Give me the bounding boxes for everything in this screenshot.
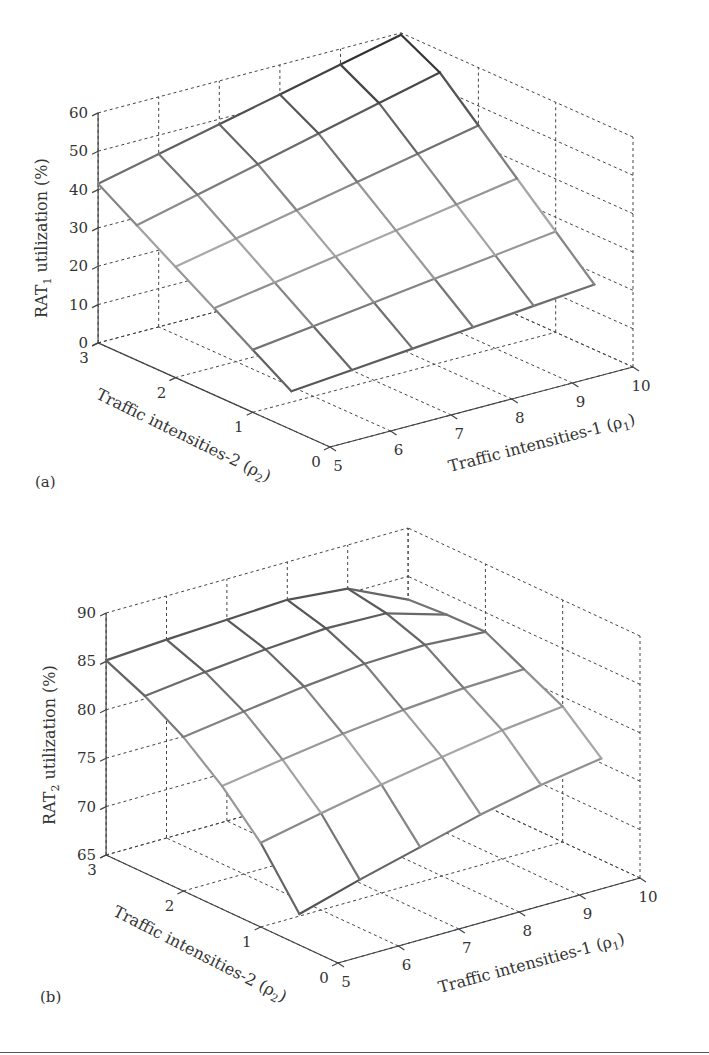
x-tick-label: 7 bbox=[462, 939, 472, 957]
z-tick-label: 70 bbox=[77, 798, 96, 816]
x-tick-label: 8 bbox=[515, 409, 525, 427]
x-tick-label: 6 bbox=[402, 956, 412, 974]
chart-b-rat2-utilization: 65707580859056789100123 RAT2 utilization… bbox=[40, 528, 658, 1008]
x-tick-label: 9 bbox=[583, 905, 593, 923]
chart-a-y-axis-label: Traffic intensities-2 (ρ2) bbox=[92, 385, 274, 489]
y-tick-label: 1 bbox=[242, 933, 252, 951]
page-bottom-rule bbox=[0, 1052, 709, 1053]
y-tick-label: 2 bbox=[157, 384, 167, 402]
z-tick-label: 90 bbox=[77, 604, 96, 622]
x-tick-label: 6 bbox=[394, 441, 404, 459]
z-tick-label: 10 bbox=[69, 296, 88, 314]
y-tick-label: 3 bbox=[79, 349, 89, 367]
y-tick-label: 0 bbox=[311, 453, 321, 471]
chart-b-y-axis-label: Traffic intensities-2 (ρ2) bbox=[109, 902, 290, 1009]
z-tick-label: 40 bbox=[69, 181, 88, 199]
y-tick-label: 0 bbox=[319, 969, 329, 987]
z-tick-label: 85 bbox=[77, 652, 96, 670]
y-tick-label: 2 bbox=[165, 897, 175, 915]
chart-a-surface-mesh bbox=[98, 35, 594, 392]
x-tick-label: 10 bbox=[638, 888, 657, 906]
z-tick-label: 60 bbox=[69, 104, 88, 122]
x-tick-label: 8 bbox=[522, 922, 532, 940]
y-tick-label: 1 bbox=[234, 418, 244, 436]
z-tick-label: 30 bbox=[69, 219, 88, 237]
z-tick-label: 75 bbox=[77, 749, 96, 767]
x-tick-label: 5 bbox=[333, 457, 343, 475]
z-tick-label: 80 bbox=[77, 701, 96, 719]
figure-canvas: 010203040506056789100123 RAT1 utilizatio… bbox=[0, 0, 709, 1055]
z-tick-label: 20 bbox=[69, 257, 88, 275]
x-tick-label: 5 bbox=[341, 973, 351, 991]
chart-a-x-axis-label: Traffic intensities-1 (ρ1) bbox=[446, 409, 638, 478]
chart-a-rat1-utilization: 010203040506056789100123 RAT1 utilizatio… bbox=[32, 33, 651, 491]
chart-b-surface-mesh bbox=[106, 589, 601, 914]
chart-b-panel-label: (b) bbox=[40, 988, 61, 1006]
y-tick-label: 3 bbox=[87, 861, 97, 879]
chart-b-z-axis-label: RAT2 utilization (%) bbox=[40, 665, 62, 825]
x-tick-label: 7 bbox=[454, 425, 464, 443]
chart-a-z-axis-label: RAT1 utilization (%) bbox=[32, 158, 54, 318]
z-tick-label: 50 bbox=[69, 142, 88, 160]
chart-a-panel-label: (a) bbox=[35, 473, 56, 491]
x-tick-label: 10 bbox=[631, 377, 650, 395]
x-tick-label: 9 bbox=[576, 393, 586, 411]
